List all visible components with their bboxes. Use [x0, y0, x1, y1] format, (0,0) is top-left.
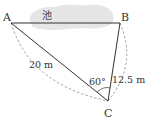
side-ac — [11, 23, 108, 101]
angle-c-label: 60° — [89, 76, 106, 87]
point-c-label: C — [104, 107, 112, 120]
side-bc — [108, 23, 120, 101]
ac-length-label: 20 m — [29, 59, 53, 70]
angle-c-arc — [97, 88, 110, 93]
point-b-label: B — [121, 11, 129, 24]
point-a-label: A — [2, 11, 12, 24]
triangle-pond-diagram: A B C 池 20 m 60° 12.5 m — [0, 0, 147, 130]
arc-bc-dashed — [108, 23, 127, 101]
pond-label: 池 — [42, 9, 52, 21]
bc-length-label: 12.5 m — [112, 74, 145, 85]
